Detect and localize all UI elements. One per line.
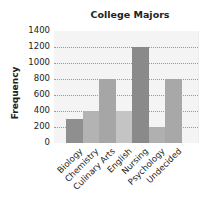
bar-undecided	[165, 79, 182, 143]
y-tick-label: 600	[10, 89, 50, 99]
bar-psychology	[149, 127, 166, 143]
bar-biology	[66, 119, 83, 143]
gridline	[54, 63, 198, 64]
y-tick-label: 1200	[10, 41, 50, 51]
gridline	[54, 47, 198, 48]
y-tick-label: 400	[10, 105, 50, 115]
bar-chemistry	[83, 111, 100, 143]
chart-title: College Majors	[60, 9, 200, 20]
y-tick-label: 1400	[10, 25, 50, 35]
y-tick-label: 200	[10, 121, 50, 131]
bar-culinary-arts	[99, 79, 116, 143]
y-tick-label: 1000	[10, 57, 50, 67]
y-tick-label: 0	[10, 137, 50, 147]
plot-area	[54, 31, 199, 143]
bar-english	[116, 111, 133, 143]
y-tick-label: 800	[10, 73, 50, 83]
bar-nursing	[132, 47, 149, 143]
